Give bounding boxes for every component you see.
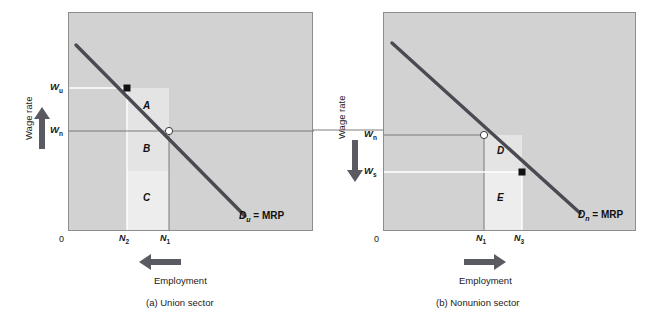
x-tick-subscript-n1: 1 (167, 238, 171, 245)
x-tick-label-n1: N1 (160, 234, 170, 245)
x-tick-subscript-n1-nonunion: 1 (483, 238, 487, 245)
y-tick-subscript-wn: n (59, 130, 63, 137)
y-tick-symbol-wn: W (50, 124, 59, 135)
x-tick-subscript-n2: 2 (126, 238, 130, 245)
x-tick-label-n1-nonunion: N1 (476, 234, 486, 245)
region-label-e: E (497, 193, 504, 203)
region-label-d: D (497, 146, 504, 156)
marker-equilibrium-point-union (165, 127, 172, 134)
curve-equals-nonunion: = MRP (590, 209, 624, 220)
x-tick-label-n3: N3 (514, 234, 524, 245)
plot-graphics-union (69, 13, 314, 232)
y-tick-subscript-wu: u (59, 87, 63, 94)
marker-spillover-wage-point (519, 169, 526, 176)
economics-figure: A B C Du = MRP Wage rate Wu Wn 0 N2 N1 E… (0, 0, 646, 317)
curve-label-nonunion: Dn = MRP (578, 210, 623, 222)
y-axis-title-union: Wage rate (24, 97, 34, 140)
panel-caption-nonunion: (b) Nonunion sector (436, 298, 519, 308)
panel-union-sector: A B C Du = MRP Wage rate Wu Wn 0 N2 N1 E… (0, 0, 323, 317)
right-arrow-icon (464, 254, 506, 270)
plot-area-union: A B C Du = MRP (68, 12, 313, 231)
y-tick-label-wn: Wn (50, 125, 63, 137)
x-axis-title-nonunion: Employment (459, 276, 512, 286)
region-label-b: B (143, 144, 150, 154)
marker-union-wage-point (124, 85, 131, 92)
panel-caption-union: (a) Union sector (146, 298, 214, 308)
up-arrow-icon (34, 107, 50, 149)
plot-area-nonunion: D E Dn = MRP (383, 12, 636, 231)
region-label-a: A (143, 101, 150, 111)
x-origin-label-union: 0 (59, 235, 64, 244)
inter-panel-connector-line (313, 0, 383, 317)
y-tick-symbol-wu: W (50, 81, 59, 92)
left-arrow-icon (139, 254, 181, 270)
marker-initial-equilibrium-point (480, 131, 487, 138)
x-axis-title-union: Employment (154, 276, 207, 286)
plot-graphics-nonunion (384, 13, 637, 232)
x-tick-label-n2: N2 (119, 234, 129, 245)
region-label-c: C (143, 193, 150, 203)
x-tick-subscript-n3: 3 (521, 238, 525, 245)
y-tick-label-wu: Wu (50, 82, 63, 94)
curve-label-union: Du = MRP (239, 211, 284, 223)
curve-equals-union: = MRP (251, 210, 285, 221)
